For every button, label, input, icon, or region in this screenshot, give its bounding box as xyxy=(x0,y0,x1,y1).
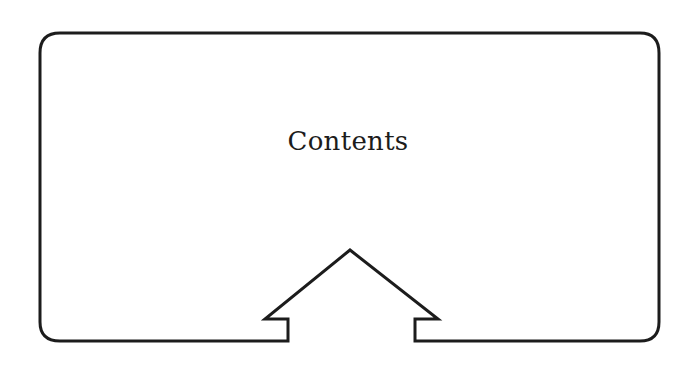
contents-diagram: Contents xyxy=(0,0,696,370)
contents-frame xyxy=(0,0,696,370)
frame-outline-with-arrow-icon xyxy=(40,33,659,341)
contents-title: Contents xyxy=(0,126,696,156)
